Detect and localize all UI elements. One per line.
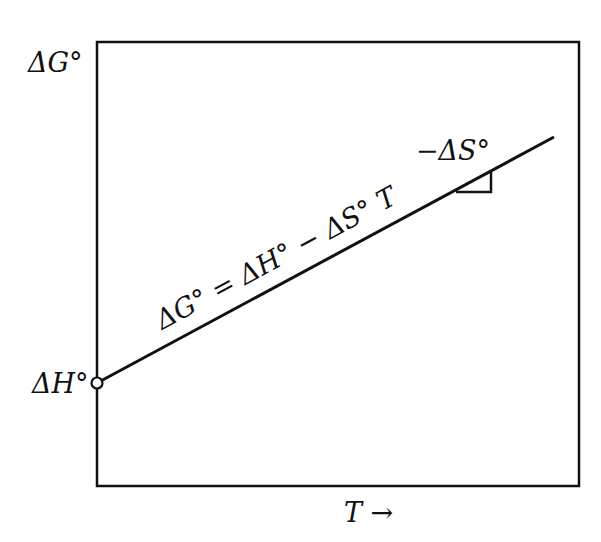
intercept-marker [92,378,103,389]
intercept-label: ΔH° [31,368,89,399]
y-axis-label: ΔG° [27,47,83,78]
plot-frame [97,42,579,486]
x-axis-label: T → [344,497,393,528]
slope-label: −ΔS° [416,135,490,166]
delta-g-line [97,137,554,383]
line-equation: ΔG° = ΔH° − ΔS° T [149,180,403,336]
gibbs-energy-diagram: ΔG° ΔH° −ΔS° ΔG° = ΔH° − ΔS° T T → [0,0,601,542]
